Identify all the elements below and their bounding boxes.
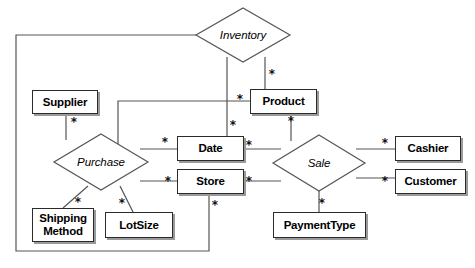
entity-box-shippingmethod[interactable]: ShippingMethod xyxy=(32,208,94,242)
entity-box-store[interactable]: Store xyxy=(177,169,244,194)
entity-box-customer[interactable]: Customer xyxy=(395,169,466,194)
cardinality-mark-product-purchase: * xyxy=(237,93,243,105)
cardinality-mark-inv-date: * xyxy=(230,119,236,131)
entity-box-paymenttype[interactable]: PaymentType xyxy=(273,212,366,238)
relationship-label-sale: Sale xyxy=(308,157,331,169)
cardinality-mark-product-sale: * xyxy=(288,115,294,127)
entity-label-store: Store xyxy=(196,175,224,187)
relationship-label-purchase: Purchase xyxy=(77,156,125,168)
cardinality-mark-purchase-shipping: * xyxy=(75,196,81,208)
cardinality-mark-supplier-purchase: * xyxy=(71,116,77,128)
entity-box-lotsize[interactable]: LotSize xyxy=(105,212,173,238)
relationship-label-inventory: Inventory xyxy=(220,29,266,41)
entity-label-date: Date xyxy=(198,142,222,154)
entity-box-product[interactable]: Product xyxy=(250,89,317,114)
entity-label-cashier: Cashier xyxy=(408,142,449,154)
entity-label-shippingmethod: ShippingMethod xyxy=(39,212,87,238)
entity-label-paymenttype: PaymentType xyxy=(284,219,356,231)
cardinality-mark-purchase-lotsize: * xyxy=(119,197,125,209)
entity-label-customer: Customer xyxy=(404,175,456,187)
cardinality-mark-store-sale: * xyxy=(246,175,252,187)
entity-label-lotsize: LotSize xyxy=(119,219,159,231)
cardinality-mark-purchase-date: * xyxy=(162,136,168,148)
entity-box-supplier[interactable]: Supplier xyxy=(32,90,98,114)
entity-box-cashier[interactable]: Cashier xyxy=(395,136,461,161)
entity-box-date[interactable]: Date xyxy=(177,136,244,161)
cardinality-mark-store-inventory: * xyxy=(212,199,218,211)
er-diagram-canvas: SupplierProductDateStoreCashierCustomerS… xyxy=(0,0,475,268)
entity-label-supplier: Supplier xyxy=(43,96,87,108)
entity-label-product: Product xyxy=(262,95,304,107)
cardinality-mark-sale-cashier: * xyxy=(382,137,388,149)
cardinality-mark-sale-customer: * xyxy=(382,175,388,187)
cardinality-mark-sale-paymenttype: * xyxy=(319,197,325,209)
cardinality-mark-date-sale: * xyxy=(246,139,252,151)
cardinality-mark-purchase-store: * xyxy=(165,175,171,187)
cardinality-mark-inv-product: * xyxy=(269,68,275,80)
